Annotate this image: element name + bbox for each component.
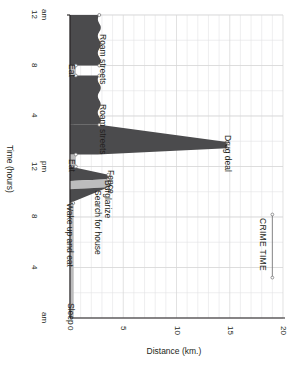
crime-time-label: CRIME TIME xyxy=(258,218,268,271)
annotation-drug-deal: Drug deal xyxy=(223,135,232,172)
xtick-15: 15 xyxy=(226,326,234,335)
xtick-0: 0 xyxy=(66,326,74,330)
ytick-12pm-suffix: pm xyxy=(40,161,48,172)
annotation-sleep: Sleep xyxy=(67,303,76,325)
ytick-12am-suffix: am xyxy=(40,9,48,20)
annotation-roam-streets-night: Roam streets xyxy=(99,34,108,85)
ytick-4pm: 4 xyxy=(30,113,38,117)
annotation-roam-streets-evening: Roam streets xyxy=(99,104,108,155)
xtick-10: 10 xyxy=(173,326,181,335)
annotation-search-for-house: Search for house xyxy=(93,190,102,255)
annotation-eat-midday: Eat xyxy=(68,159,77,172)
ytick-8pm: 8 xyxy=(30,63,38,67)
y-axis-title: Time (hours) xyxy=(6,145,15,193)
annotation-burglarize: Burglarize xyxy=(103,180,112,218)
ytick-am-suffix: am xyxy=(40,312,48,323)
chart-canvas: 12 am 8 4 12 pm 8 4 am 0 5 10 15 20 Time… xyxy=(0,0,303,369)
xtick-5: 5 xyxy=(119,326,127,330)
ytick-12pm-num: 12 xyxy=(30,162,38,171)
x-axis-title: Distance (km.) xyxy=(147,347,202,356)
annotation-wake-up-and-eat: Wake up and eat xyxy=(66,203,75,267)
ytick-8am: 8 xyxy=(30,214,38,218)
ytick-12am-num: 12 xyxy=(30,10,38,19)
ytick-4am: 4 xyxy=(30,265,38,269)
xtick-20: 20 xyxy=(279,326,287,335)
crime-time-bracket xyxy=(271,213,274,279)
annotation-eat-evening: Eat xyxy=(68,64,77,77)
